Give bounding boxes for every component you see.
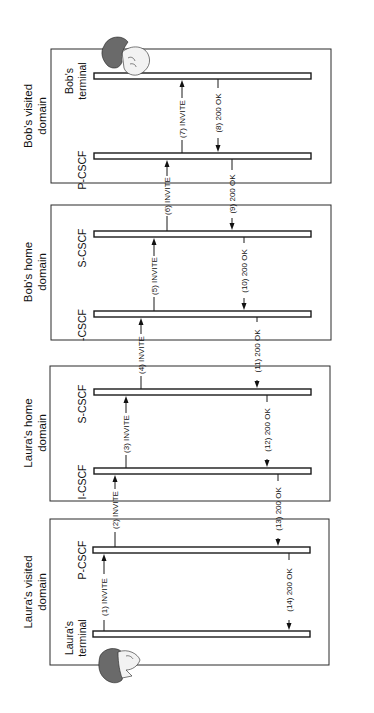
arrowhead-icon	[230, 223, 235, 230]
laura-pcscf-label: P-CSCF	[76, 540, 88, 579]
bob-pcscf-label: P-CSCF	[76, 150, 88, 189]
arrowhead-icon	[242, 303, 247, 310]
svg-text:(2) INVITE: (2) INVITE	[111, 491, 120, 529]
laura-pcscf-lifeline	[93, 547, 310, 553]
svg-text:(4) INVITE: (4) INVITE	[137, 336, 146, 374]
svg-text:(7) INVITE: (7) INVITE	[178, 100, 187, 138]
bob-visited-domain-title: Bob's visited domain	[22, 84, 48, 148]
arrowhead-icon	[165, 160, 170, 167]
laura-home-domain-title: Laura's home domain	[22, 398, 48, 467]
arrowhead-icon	[255, 381, 260, 388]
bob-icscf-label: -CSCF	[76, 309, 88, 341]
bob-visited-domain-box	[51, 49, 331, 183]
message-11-200ok: (11) 200 OK	[253, 317, 262, 388]
arrowhead-icon	[139, 318, 144, 325]
bob-pcscf-lifeline	[94, 153, 311, 159]
message-3-invite: (3) INVITE	[122, 396, 131, 468]
bob-scscf-label: S-CSCF	[76, 228, 88, 267]
svg-text:terminal: terminal	[76, 62, 88, 99]
bob-terminal-label: Bob's terminal	[63, 62, 88, 99]
message-6-invite: (6) INVITE	[163, 160, 172, 231]
svg-text:(6) INVITE: (6) INVITE	[163, 177, 172, 215]
laura-icscf-lifeline	[94, 468, 311, 474]
svg-text:domain: domain	[36, 97, 48, 135]
laura-scscf-label: S-CSCF	[76, 384, 88, 423]
message-14-200ok: (14) 200 OK	[285, 553, 294, 630]
svg-text:Laura's: Laura's	[63, 621, 75, 655]
laura-visited-domain-title: Laura's visited domain	[22, 555, 48, 628]
arrowhead-icon	[113, 475, 118, 482]
svg-text:(14) 200 OK: (14) 200 OK	[285, 568, 294, 612]
svg-text:(1) INVITE: (1) INVITE	[100, 578, 109, 616]
svg-text:Bob's visited: Bob's visited	[22, 84, 34, 148]
svg-text:domain: domain	[36, 253, 48, 291]
svg-text:domain: domain	[36, 414, 48, 452]
svg-text:(13) 200 OK: (13) 200 OK	[274, 487, 283, 531]
bob-terminal-lifeline	[94, 73, 311, 79]
svg-text:(12) 200 OK: (12) 200 OK	[263, 408, 272, 452]
arrowhead-icon	[216, 145, 221, 152]
laura-icscf-label: I-CSCF	[76, 465, 88, 500]
message-1-invite: (1) INVITE	[100, 554, 109, 631]
message-4-invite: (4) INVITE	[137, 318, 146, 389]
svg-text:terminal: terminal	[76, 619, 88, 656]
message-13-200ok: (13) 200 OK	[274, 474, 283, 546]
svg-text:(5) INVITE: (5) INVITE	[150, 257, 159, 295]
svg-text:(11) 200 OK: (11) 200 OK	[253, 329, 262, 373]
laura-terminal-label: Laura's terminal	[63, 619, 88, 656]
svg-text:domain: domain	[36, 573, 48, 611]
svg-text:Laura's home: Laura's home	[22, 398, 34, 467]
laura-terminal-lifeline	[93, 631, 310, 637]
svg-text:(3) INVITE: (3) INVITE	[122, 415, 131, 453]
svg-text:Laura's visited: Laura's visited	[22, 555, 34, 628]
bob-home-domain-box	[51, 205, 331, 340]
svg-text:(10) 200 OK: (10) 200 OK	[240, 249, 249, 293]
svg-text:Bob's: Bob's	[63, 68, 75, 94]
bob-scscf-lifeline	[94, 231, 311, 237]
bob-home-domain-title: Bob's home domain	[22, 242, 48, 302]
laura-home-domain-box	[50, 366, 330, 501]
message-8-200ok: (8) 200 OK	[214, 79, 223, 152]
arrowhead-icon	[152, 238, 157, 245]
sip-session-flow-diagram: Bob's visited domain Bob's home domain L…	[0, 0, 374, 713]
laura-head-icon	[99, 649, 140, 683]
message-5-invite: (5) INVITE	[150, 238, 159, 311]
arrowhead-icon	[180, 80, 185, 87]
arrowhead-icon	[102, 554, 107, 561]
svg-text:Bob's home: Bob's home	[22, 242, 34, 302]
message-2-invite: (2) INVITE	[111, 475, 120, 547]
laura-scscf-lifeline	[94, 389, 311, 395]
message-10-200ok: (10) 200 OK	[240, 237, 249, 310]
message-12-200ok: (12) 200 OK	[263, 395, 272, 467]
arrowhead-icon	[265, 460, 270, 467]
arrowhead-icon	[124, 396, 129, 403]
message-9-200ok: (9) 200 OK	[228, 159, 237, 230]
message-7-invite: (7) INVITE	[178, 80, 187, 153]
svg-text:(9) 200 OK: (9) 200 OK	[228, 174, 237, 214]
arrowhead-icon	[276, 539, 281, 546]
svg-text:(8) 200 OK: (8) 200 OK	[214, 93, 223, 133]
bob-icscf-lifeline	[94, 311, 311, 317]
bob-head-icon	[102, 37, 150, 75]
arrowhead-icon	[287, 623, 292, 630]
